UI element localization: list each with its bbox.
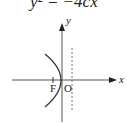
focus-label: F <box>50 82 56 94</box>
y-axis-label: y <box>66 14 71 26</box>
origin-label: O <box>64 82 72 94</box>
x-axis-arrow-icon <box>109 77 117 83</box>
y-axis-arrow-icon <box>59 23 65 31</box>
parabola-diagram <box>0 0 127 123</box>
x-axis-label: x <box>119 73 124 85</box>
